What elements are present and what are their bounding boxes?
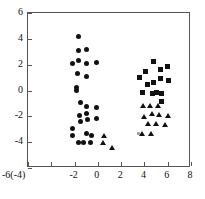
y-tick: [28, 91, 32, 92]
data-point-circles: [89, 133, 94, 138]
data-point-circles: [84, 131, 89, 136]
data-point-circles: [76, 48, 81, 53]
data-points-layer: [28, 13, 189, 166]
data-point-triangles: [141, 114, 147, 119]
data-point-circles: [78, 119, 83, 124]
data-point-squares: [151, 59, 156, 64]
data-point-circles: [94, 60, 99, 65]
scatter-plot-figure: -6(-4)-202468 6420-2-4: [0, 0, 205, 199]
y-tick: [28, 142, 32, 143]
x-tick: [191, 162, 192, 166]
x-tick: [51, 162, 52, 166]
data-point-triangles: [145, 121, 151, 126]
y-tick: [28, 39, 32, 40]
data-point-circles: [76, 58, 81, 63]
data-point-triangles: [101, 133, 107, 138]
data-point-circles: [75, 71, 80, 76]
data-point-circles: [88, 140, 93, 145]
data-point-circles: [81, 140, 86, 145]
data-point-circles: [94, 116, 99, 121]
x-tick-label: -2: [69, 170, 77, 180]
data-point-squares: [137, 75, 142, 80]
y-tick-label: -4: [0, 136, 23, 146]
y-tick: [28, 65, 32, 66]
x-tick-label: -6(-4): [2, 170, 25, 180]
data-point-circles: [74, 88, 79, 93]
data-point-small-marker: [137, 132, 140, 135]
y-tick-label: 0: [0, 85, 23, 95]
data-point-circles: [78, 100, 83, 105]
y-tick-label: 6: [0, 7, 23, 17]
data-point-triangles: [148, 131, 154, 136]
data-point-circles: [77, 113, 82, 118]
data-point-circles: [84, 104, 89, 109]
data-point-triangles: [147, 103, 153, 108]
data-point-circles: [84, 111, 89, 116]
data-point-triangles: [139, 131, 145, 136]
data-point-circles: [70, 133, 75, 138]
x-tick: [121, 162, 122, 166]
data-point-triangles: [156, 112, 162, 117]
x-tick-label: 4: [141, 170, 146, 180]
data-point-triangles: [100, 140, 106, 145]
data-point-squares: [151, 80, 156, 85]
data-point-squares: [159, 91, 164, 96]
data-point-triangles: [109, 145, 115, 150]
data-point-circles: [76, 140, 81, 145]
y-tick: [28, 168, 32, 169]
data-point-circles: [84, 74, 89, 79]
data-point-circles: [84, 47, 89, 52]
x-tick: [98, 162, 99, 166]
data-point-triangles: [155, 103, 161, 108]
data-point-squares: [145, 82, 150, 87]
x-tick: [75, 162, 76, 166]
y-tick-label: 2: [0, 59, 23, 69]
data-point-squares: [166, 78, 171, 83]
data-point-triangles: [149, 111, 155, 116]
data-point-triangles: [162, 122, 168, 127]
x-tick-label: 0: [94, 170, 99, 180]
y-tick: [28, 116, 32, 117]
data-point-squares: [165, 64, 170, 69]
y-tick-label: -2: [0, 110, 23, 120]
data-point-squares: [143, 69, 148, 74]
data-point-triangles: [140, 103, 146, 108]
x-tick-label: 6: [164, 170, 169, 180]
data-point-triangles: [153, 121, 159, 126]
data-point-circles: [76, 34, 81, 39]
y-tick: [28, 13, 32, 14]
x-tick: [28, 162, 29, 166]
x-tick-label: 8: [188, 170, 193, 180]
data-point-triangles: [165, 113, 171, 118]
data-point-squares: [140, 90, 145, 95]
data-point-squares: [158, 76, 163, 81]
data-point-circles: [85, 117, 90, 122]
x-tick-label: 2: [118, 170, 123, 180]
data-point-circles: [70, 61, 75, 66]
x-tick: [168, 162, 169, 166]
data-point-squares: [158, 67, 163, 72]
x-tick: [144, 162, 145, 166]
data-point-circles: [84, 61, 89, 66]
plot-frame: [27, 12, 190, 167]
data-point-squares: [154, 90, 159, 95]
data-point-circles: [70, 126, 75, 131]
y-tick-label: 4: [0, 33, 23, 43]
data-point-circles: [94, 105, 99, 110]
